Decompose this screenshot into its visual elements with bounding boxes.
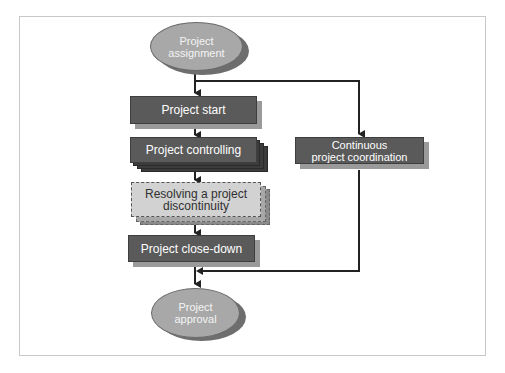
node-label: approval (174, 313, 216, 325)
node-project-close-down[interactable]: Project close-down (128, 235, 255, 262)
node-project-approval[interactable]: Project approval (151, 288, 240, 338)
node-label: Resolving a project (145, 188, 247, 200)
node-label: Continuous (332, 139, 388, 151)
node-label: Project start (161, 104, 225, 116)
node-label: Project controlling (146, 144, 241, 156)
node-resolving-discontinuity[interactable]: Resolving a project discontinuity (131, 182, 261, 217)
node-project-assignment[interactable]: Project assignment (150, 22, 243, 71)
node-project-start[interactable]: Project start (130, 96, 257, 124)
node-label: Project (179, 35, 213, 47)
node-label: Project (178, 301, 212, 313)
node-label: assignment (168, 47, 224, 59)
node-label: Project close-down (141, 243, 242, 255)
node-label: project coordination (311, 151, 407, 163)
node-project-controlling[interactable]: Project controlling (130, 137, 257, 163)
node-label: discontinuity (163, 200, 229, 212)
node-continuous-coordination[interactable]: Continuous project coordination (295, 137, 424, 164)
